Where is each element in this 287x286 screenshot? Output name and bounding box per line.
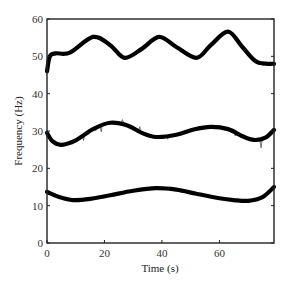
x-axis-label: Time (s) bbox=[141, 262, 179, 275]
plot-frame bbox=[47, 19, 274, 243]
y-tick-label: 30 bbox=[32, 125, 44, 137]
y-tick-label: 20 bbox=[32, 162, 44, 174]
y-axis: 0102030405060 bbox=[32, 13, 274, 249]
smoothed-line bbox=[47, 187, 274, 201]
x-tick-label: 20 bbox=[99, 247, 111, 259]
x-tick-label: 60 bbox=[214, 247, 226, 259]
y-axis-label: Frequency (Hz) bbox=[12, 96, 25, 166]
y-tick-label: 10 bbox=[32, 200, 44, 212]
x-tick-label: 40 bbox=[156, 247, 168, 259]
x-tick-label: 0 bbox=[44, 247, 50, 259]
y-tick-label: 50 bbox=[32, 50, 44, 62]
y-tick-label: 0 bbox=[38, 237, 44, 249]
smoothed-line bbox=[47, 32, 274, 72]
y-tick-label: 60 bbox=[32, 13, 44, 25]
frequency-time-chart: 0204060 0102030405060 Time (s) Frequency… bbox=[0, 0, 287, 286]
y-tick-label: 40 bbox=[32, 88, 44, 100]
plot-series bbox=[47, 31, 274, 202]
smoothed-line bbox=[47, 123, 274, 145]
